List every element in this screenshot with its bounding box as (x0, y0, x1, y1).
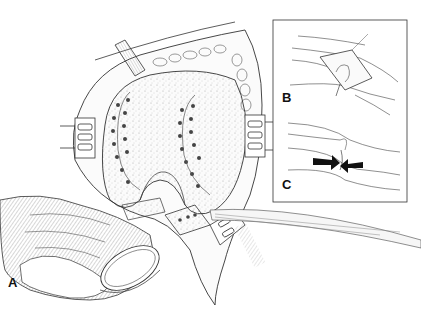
panel-label-b: B (282, 91, 291, 104)
retractor-right (245, 115, 275, 157)
retractor-left (60, 118, 95, 158)
panel-label-c: C (282, 178, 291, 191)
inset-box (273, 20, 407, 202)
surgical-illustration (0, 0, 421, 313)
panel-label-a: A (8, 276, 17, 289)
inset-frame (273, 20, 407, 202)
